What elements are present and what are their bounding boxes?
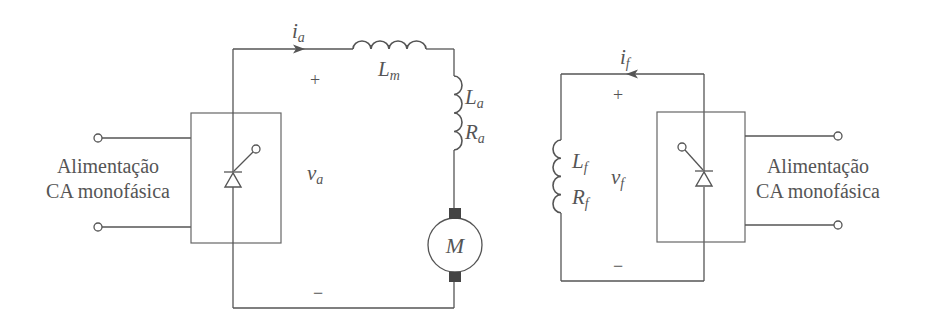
field-current-label: if (620, 45, 632, 71)
motor-label: M (445, 233, 466, 258)
terminal-bottom-icon (834, 221, 842, 229)
armature-circuit: Alimentação CA monofásica M (46, 19, 485, 308)
armature-plus-sign: + (310, 70, 320, 90)
motor-brush-bottom (449, 272, 461, 282)
field-minus-sign: − (613, 256, 623, 276)
field-circuit: Alimentação CA monofásica if + − vf Lf R… (553, 45, 880, 281)
inductor-lf-label: Lf (571, 149, 590, 175)
armature-minus-sign: − (313, 283, 323, 303)
armature-supply-label-line1: Alimentação (57, 155, 159, 178)
inductor-lm-label: Lm (377, 57, 400, 83)
armature-voltage-label: va (307, 161, 323, 187)
terminal-top-icon (94, 134, 102, 142)
field-supply-label-line2: CA monofásica (756, 180, 880, 202)
inductor-lm-icon (353, 41, 426, 49)
resistor-rf-label: Rf (571, 185, 591, 211)
dc-motor-drive-diagram: Alimentação CA monofásica M (0, 0, 926, 328)
field-voltage-label: vf (611, 165, 626, 191)
inductor-la-ra-icon (454, 76, 462, 150)
inductor-la-label: La (464, 85, 484, 111)
armature-thyristor-icon (224, 145, 260, 188)
field-plus-sign: + (613, 85, 623, 105)
armature-supply-label-line2: CA monofásica (46, 180, 170, 202)
armature-current-label: ia (292, 19, 305, 45)
inductor-lf-rf-icon (553, 140, 561, 213)
resistor-ra-label: Ra (464, 120, 485, 146)
field-supply-label-line1: Alimentação (767, 155, 869, 178)
dc-motor-icon: M (428, 208, 482, 282)
terminal-top-icon (834, 132, 842, 140)
field-thyristor-icon (678, 143, 713, 186)
terminal-bottom-icon (94, 223, 102, 231)
motor-brush-top (449, 208, 461, 219)
